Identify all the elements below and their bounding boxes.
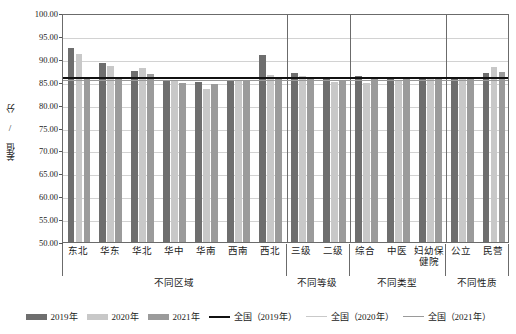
bar xyxy=(395,80,402,242)
legend-label: 2019年 xyxy=(51,310,78,323)
legend-swatch-icon xyxy=(87,314,108,320)
y-axis-tick-label: 60.00 xyxy=(18,193,58,202)
chart-legend: 2019年2020年2021年全国（2019年）全国（2020年）全国（2021… xyxy=(0,310,516,323)
x-axis-group-band xyxy=(62,244,286,276)
y-axis-tick-label: 95.00 xyxy=(18,33,58,42)
y-axis-tick-label: 65.00 xyxy=(18,170,58,179)
bar xyxy=(163,80,170,242)
bar xyxy=(307,77,314,242)
bar xyxy=(131,71,138,242)
bar xyxy=(171,81,178,242)
legend-label: 全国（2019年） xyxy=(234,310,297,323)
y-axis-tick-label: 50.00 xyxy=(18,239,58,248)
legend-item[interactable]: 全国（2019年） xyxy=(209,310,297,323)
x-axis-group-label: 不同等级 xyxy=(286,278,350,289)
legend-line-icon xyxy=(306,316,327,317)
y-axis-tick-label: 100.00 xyxy=(18,10,58,19)
legend-line-icon xyxy=(209,316,230,318)
x-axis-group-band xyxy=(286,244,350,276)
bar xyxy=(467,77,474,242)
legend-label: 全国（2021年） xyxy=(428,310,491,323)
legend-label: 2021年 xyxy=(173,310,200,323)
x-axis-group-band xyxy=(445,244,509,276)
legend-item[interactable]: 2021年 xyxy=(148,310,200,323)
legend-label: 全国（2020年） xyxy=(331,310,394,323)
reference-line xyxy=(63,80,508,81)
plot-area xyxy=(62,14,509,243)
bar xyxy=(483,73,490,242)
bar xyxy=(427,79,434,242)
bar xyxy=(491,67,498,242)
y-axis-tick-label: 85.00 xyxy=(18,79,58,88)
bar xyxy=(267,75,274,242)
legend-item[interactable]: 全国（2021年） xyxy=(403,310,491,323)
bar xyxy=(355,76,362,242)
bar xyxy=(76,54,83,242)
bar xyxy=(435,78,442,242)
bar xyxy=(99,63,106,242)
y-axis-tick-label: 90.00 xyxy=(18,56,58,65)
legend-swatch-icon xyxy=(26,314,47,320)
legend-item[interactable]: 2019年 xyxy=(26,310,78,323)
y-axis-tick-label: 55.00 xyxy=(18,216,58,225)
bar xyxy=(227,81,234,242)
bar xyxy=(275,77,282,242)
bar xyxy=(203,89,210,242)
y-axis-title: 差值 / 分 xyxy=(2,96,18,170)
legend-line-icon xyxy=(403,316,424,317)
bar xyxy=(363,83,370,242)
bar xyxy=(371,77,378,242)
bar-series-layer xyxy=(63,15,508,242)
x-axis-group-label: 不同性质 xyxy=(445,278,509,289)
legend-item[interactable]: 2020年 xyxy=(87,310,139,323)
bar xyxy=(419,77,426,242)
bar xyxy=(339,81,346,242)
bar xyxy=(291,73,298,242)
bar xyxy=(84,78,91,242)
bar xyxy=(259,55,266,242)
bar xyxy=(243,80,250,242)
chart-container: 差值 / 分 100.0095.0090.0085.0080.0075.0070… xyxy=(0,0,516,334)
bar xyxy=(235,81,242,242)
bar xyxy=(139,68,146,242)
bar xyxy=(459,79,466,243)
bar xyxy=(195,82,202,242)
bar xyxy=(323,79,330,242)
bar xyxy=(179,83,186,242)
bar xyxy=(107,66,114,242)
legend-item[interactable]: 全国（2020年） xyxy=(306,310,394,323)
bar xyxy=(403,79,410,242)
bar xyxy=(147,74,154,242)
legend-swatch-icon xyxy=(148,314,169,320)
bar xyxy=(387,79,394,242)
legend-label: 2020年 xyxy=(112,310,139,323)
y-axis-tick-label: 75.00 xyxy=(18,125,58,134)
bar xyxy=(115,77,122,242)
bar xyxy=(499,72,506,242)
bar xyxy=(211,84,218,242)
y-axis-tick-label: 70.00 xyxy=(18,147,58,156)
bar xyxy=(451,77,458,242)
x-axis-group-label: 不同类型 xyxy=(349,278,445,289)
x-axis-group-band xyxy=(349,244,445,276)
y-axis-tick-label: 80.00 xyxy=(18,102,58,111)
bar xyxy=(331,82,338,242)
x-axis-group-label: 不同区域 xyxy=(62,278,286,289)
bar xyxy=(299,76,306,242)
